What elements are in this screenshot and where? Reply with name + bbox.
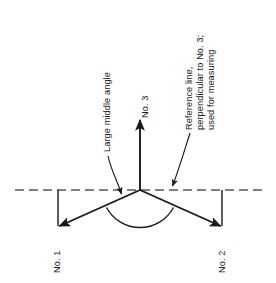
label-reference-line-1: Reference line, — [184, 67, 194, 130]
angle-diagram: Large middle angle No. 3 Reference line,… — [0, 0, 276, 283]
label-middle-angle: Large middle angle — [102, 72, 112, 152]
label-ray-no-1: No. 1 — [52, 251, 62, 273]
middle-angle-arc — [107, 208, 174, 228]
label-ray-no-2: No. 2 — [217, 251, 227, 273]
label-reference-line-2: perpendicular to No. 3; — [195, 35, 205, 130]
leader-middle-angle — [108, 156, 122, 194]
leader-reference-line — [173, 133, 191, 186]
label-reference-line-3: used for measuring — [206, 50, 216, 130]
figure-root: Large middle angle No. 3 Reference line,… — [0, 0, 276, 283]
ray-no-1 — [60, 190, 141, 226]
label-ray-no-3: No. 3 — [140, 96, 150, 118]
ray-no-2 — [140, 190, 221, 226]
